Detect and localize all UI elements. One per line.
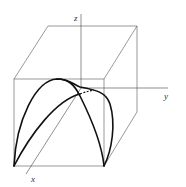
z-axis-label: z	[73, 13, 78, 23]
x-axis-label: x	[30, 174, 35, 184]
box-edge-bottom-right	[104, 112, 137, 166]
y-axis-label: y	[163, 91, 168, 101]
3d-box-diagram: z y x	[0, 0, 186, 187]
axes: z y x	[26, 13, 168, 184]
arch-curve-lower-hidden	[80, 90, 94, 94]
curves	[14, 79, 113, 166]
x-axis	[26, 88, 81, 174]
box-edge-top-left	[14, 26, 48, 79]
box-edge-top-right	[104, 26, 137, 79]
